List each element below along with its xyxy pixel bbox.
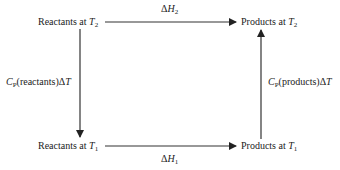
edge-label-delta-h2: ΔH2 <box>161 3 178 15</box>
node-products-t2: Products at T2 <box>241 16 297 28</box>
edge-label-cp-reactants: CP(reactants)ΔT <box>6 76 71 88</box>
node-reactants-t1: Reactants at T1 <box>38 140 98 152</box>
node-products-t1: Products at T1 <box>241 140 297 152</box>
edge-label-cp-products: CP(products)ΔT <box>268 76 332 88</box>
edge-label-delta-h1: ΔH1 <box>161 153 178 165</box>
node-reactants-t2: Reactants at T2 <box>38 16 98 28</box>
